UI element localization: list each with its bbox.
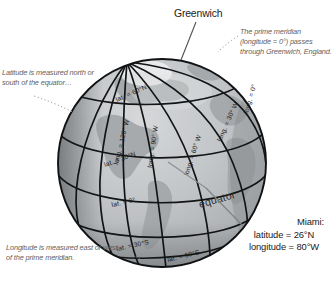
callout-miami: Miami: latitude = 26°N longitude = 80°W	[236, 216, 332, 254]
callout-miami-latitude: latitude = 26°N	[236, 229, 332, 242]
annotation-longitude: Longitude is measured east or west of th…	[6, 243, 124, 263]
leader-greenwich	[181, 22, 196, 60]
callout-miami-title: Miami:	[236, 216, 332, 229]
leader-prime-meridian	[218, 36, 238, 52]
annotation-latitude: Latitude is measured north or south of t…	[2, 68, 106, 88]
callout-miami-longitude: longitude = 80°W	[236, 241, 332, 254]
annotation-prime-meridian: The prime meridian (longitude = 0°) pass…	[240, 27, 332, 58]
label-greenwich-city: Greenwich	[174, 8, 222, 19]
